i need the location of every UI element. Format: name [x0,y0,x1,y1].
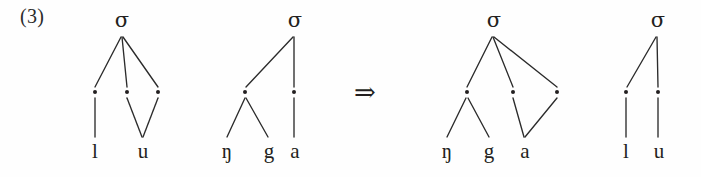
tree3-terminal-eng: ŋ [442,141,452,162]
tree1-terminal-u: u [138,141,149,162]
tree3-mora2-to-a [513,98,524,137]
tree3-mora1-to-eng [447,98,466,137]
tree3-terminal-a: a [520,141,529,162]
tree4-mora-1 [624,90,628,94]
tree2-sigma-to-mora1 [246,37,293,87]
tree1-sigma-root: σ [115,10,129,31]
tree4-sigma-to-mora1 [627,37,656,87]
tree2-mora1-to-g [246,98,268,137]
tree3-sigma-to-mora2 [493,37,513,87]
tree1-mora-1 [93,90,97,94]
tree4-sigma-root: σ [651,10,665,31]
double-right-arrow-icon: ⇒ [354,79,376,105]
tree3-terminal-g: g [484,141,495,162]
tree1-mora3-to-u [143,98,158,137]
tree1-mora2-to-u [127,98,142,137]
tree3-sigma-to-mora1 [467,37,492,87]
tree3-mora1-to-g [468,98,489,137]
tree2-terminal-a: a [290,141,299,162]
tree3-mora3-to-a [525,98,557,137]
tree4-mora-2 [656,90,660,94]
tree2-mora-1 [243,90,247,94]
tree1-mora-2 [125,90,129,94]
tree2-sigma-root: σ [288,10,302,31]
tree1-sigma-to-mora3 [123,37,158,87]
association-lines [0,0,701,177]
autosegmental-derivation-figure: (3) σ l u σ [0,0,701,177]
tree4-terminal-l: l [623,141,629,162]
tree1-sigma-to-mora1 [95,37,121,87]
tree1-mora-3 [156,90,160,94]
tree3-mora-1 [465,90,469,94]
tree2-terminal-g: g [264,141,275,162]
tree2-mora1-to-eng [227,98,245,137]
tree4-sigma-to-mora2 [657,37,658,87]
tree3-sigma-root: σ [487,10,501,31]
tree2-terminal-eng: ŋ [222,141,232,162]
tree3-mora-3 [555,90,559,94]
example-number: (3) [20,6,44,26]
tree4-terminal-u: u [654,141,665,162]
tree1-sigma-to-mora2 [122,37,127,87]
tree3-mora-2 [511,90,515,94]
tree1-terminal-l: l [92,141,98,162]
tree2-mora-2 [292,90,296,94]
tree3-sigma-to-mora3 [494,37,557,87]
